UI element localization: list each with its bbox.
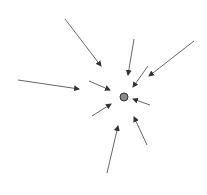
arrows-group xyxy=(18,19,194,173)
arrow-8 xyxy=(133,99,150,105)
arrow-2 xyxy=(128,39,134,75)
arrow-3 xyxy=(133,66,148,87)
arrow-5 xyxy=(18,80,79,89)
arrow-4 xyxy=(149,41,194,76)
arrow-6 xyxy=(89,81,110,90)
arrow-1 xyxy=(65,19,101,66)
center-point xyxy=(120,93,128,101)
converging-arrows-diagram xyxy=(0,0,207,195)
diagram-canvas xyxy=(0,0,207,195)
arrow-9 xyxy=(134,117,147,145)
arrow-10 xyxy=(107,126,118,173)
arrow-7 xyxy=(92,104,111,116)
